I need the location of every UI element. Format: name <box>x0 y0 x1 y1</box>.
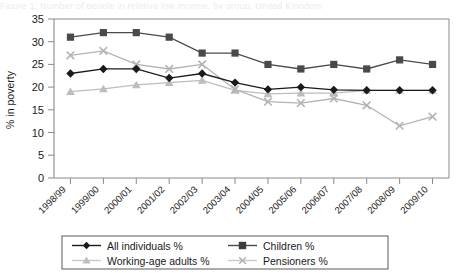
x-tick-label: 2003/04 <box>200 184 232 216</box>
y-tick-label: 0 <box>38 172 44 184</box>
poverty-line-chart: Figure 1: Number of people in relative l… <box>0 0 462 273</box>
square-marker-icon <box>239 242 246 249</box>
square-marker-icon <box>429 61 436 68</box>
legend-label-pensioners: Pensioners % <box>263 255 328 267</box>
square-marker-icon <box>330 61 337 68</box>
chart-canvas: % in poverty 35 30 25 20 15 10 <box>0 0 462 273</box>
square-marker-icon <box>264 61 271 68</box>
legend-label-children: Children % <box>263 240 314 252</box>
x-tick-label: 2000/01 <box>102 184 134 216</box>
series-line <box>70 33 432 69</box>
square-marker-icon <box>231 49 238 56</box>
x-tick-label: 2002/03 <box>167 184 199 216</box>
series-all-individuals <box>66 65 436 95</box>
diamond-marker-icon <box>132 65 140 73</box>
y-axis-ticks <box>48 19 54 178</box>
series-working-age-adults <box>66 76 437 97</box>
diamond-marker-icon <box>297 83 305 91</box>
x-tick-label: 2008/09 <box>365 184 397 216</box>
y-tick-label: 35 <box>32 13 44 25</box>
diamond-marker-icon <box>99 65 107 73</box>
square-marker-icon <box>166 34 173 41</box>
x-tick-label: 1999/00 <box>69 184 101 216</box>
square-marker-icon <box>363 65 370 72</box>
square-marker-icon <box>67 34 74 41</box>
legend-label-working-age-adults: Working-age adults % <box>107 255 210 267</box>
legend: All individuals % Children % Working-age… <box>62 236 388 269</box>
series-line <box>70 80 432 94</box>
x-tick-label: 2007/08 <box>332 184 364 216</box>
square-marker-icon <box>396 56 403 63</box>
x-marker-icon <box>429 113 437 121</box>
square-marker-icon <box>100 29 107 36</box>
y-tick-label: 30 <box>32 36 44 48</box>
x-tick-label: 2004/05 <box>233 184 265 216</box>
clipped-caption-text: Figure 1: Number of people in relative l… <box>0 1 322 9</box>
square-marker-icon <box>133 29 140 36</box>
y-tick-label: 25 <box>32 58 44 70</box>
y-axis-tick-labels: 35 30 25 20 15 10 5 0 <box>32 13 44 184</box>
clipped-caption-artifact: Figure 1: Number of people in relative l… <box>0 0 462 9</box>
y-tick-label: 15 <box>32 104 44 116</box>
legend-label-all-individuals: All individuals % <box>107 240 183 252</box>
x-tick-label: 2006/07 <box>299 184 331 216</box>
plot-frame <box>54 19 449 178</box>
diamond-marker-icon <box>198 69 206 77</box>
y-axis-title-text: % in poverty <box>4 70 16 129</box>
diamond-marker-icon <box>165 74 173 82</box>
square-marker-icon <box>199 49 206 56</box>
series-line <box>70 51 432 126</box>
x-tick-label: 2005/06 <box>266 184 298 216</box>
y-tick-label: 20 <box>32 81 44 93</box>
x-tick-label: 2009/10 <box>398 184 430 216</box>
x-tick-label: 2001/02 <box>135 184 167 216</box>
x-marker-icon <box>396 122 404 130</box>
x-axis-ticks <box>70 178 432 184</box>
diamond-marker-icon <box>66 69 74 77</box>
y-axis-title: % in poverty <box>4 70 16 129</box>
x-axis-tick-labels: 1998/991999/002000/012001/022002/032003/… <box>36 184 430 216</box>
series-line <box>70 69 432 90</box>
y-tick-label: 5 <box>38 149 44 161</box>
diamond-marker-icon <box>264 85 272 93</box>
square-marker-icon <box>297 65 304 72</box>
series-layer <box>66 29 437 130</box>
y-tick-label: 10 <box>32 127 44 139</box>
x-tick-label: 1998/99 <box>36 184 68 216</box>
y-axis: 35 30 25 20 15 10 5 0 <box>32 13 54 184</box>
series-children <box>67 29 436 73</box>
